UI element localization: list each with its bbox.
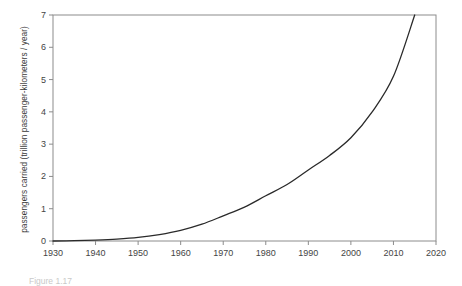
y-tick-marks	[49, 15, 53, 241]
data-line-passengers-carried	[53, 15, 415, 241]
figure-caption: Figure 1.17	[29, 276, 72, 286]
x-tick-marks	[53, 241, 436, 245]
